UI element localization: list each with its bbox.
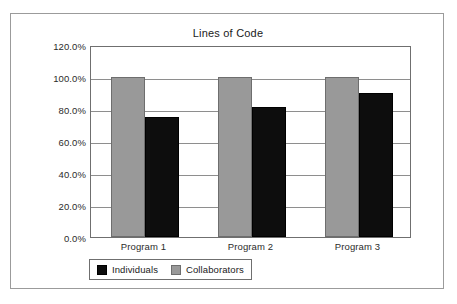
chart-legend: IndividualsCollaborators [89, 259, 252, 280]
y-axis-tick-label: 20.0% [18, 201, 86, 212]
x-axis-tick-label: Program 3 [335, 241, 380, 252]
legend-label: Individuals [112, 264, 158, 275]
y-axis-tick-labels: 120.0%100.0%80.0%60.0%40.0%20.0%0.0% [11, 46, 86, 238]
legend-entry-collaborators: Collaborators [171, 264, 244, 275]
y-axis-tick-label: 120.0% [18, 41, 86, 52]
bar-individuals-program-3 [359, 93, 393, 237]
y-axis-tick-label: 80.0% [18, 105, 86, 116]
bar-individuals-program-1 [145, 117, 179, 237]
bar-individuals-program-2 [252, 107, 286, 237]
legend-entry-individuals: Individuals [97, 264, 158, 275]
chart-figure: Lines of Code 120.0%100.0%80.0%60.0%40.0… [10, 13, 444, 289]
bar-collaborators-program-2 [218, 77, 252, 237]
y-axis-tick-label: 60.0% [18, 137, 86, 148]
y-axis-tick-label: 40.0% [18, 169, 86, 180]
y-axis-tick-label: 0.0% [18, 233, 86, 244]
bar-collaborators-program-3 [325, 77, 359, 237]
chart-title: Lines of Code [11, 27, 445, 39]
x-axis-tick-label: Program 1 [121, 241, 166, 252]
legend-swatch-gray [171, 265, 181, 275]
bar-collaborators-program-1 [111, 77, 145, 237]
x-axis-tick-labels: Program 1Program 2Program 3 [90, 241, 411, 259]
x-axis-tick-label: Program 2 [228, 241, 273, 252]
legend-label: Collaborators [186, 264, 244, 275]
y-axis-tick-label: 100.0% [18, 73, 86, 84]
legend-swatch-black [97, 265, 107, 275]
plot-area [90, 46, 411, 238]
